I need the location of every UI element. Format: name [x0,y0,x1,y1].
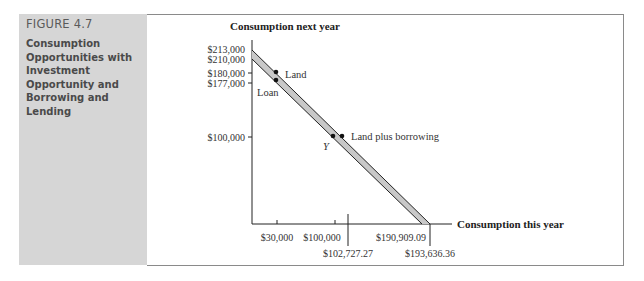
label-loan: Loan [257,87,279,98]
x-tick-label: $100,000 [303,232,341,243]
point-y [331,134,336,139]
label-land: Land [285,69,307,80]
chart: Consumption next year $213,000 $210,000 … [0,0,644,281]
label-land-plus-borrowing: Land plus borrowing [351,131,440,142]
y-tick-label: $100,000 [208,132,246,143]
x-tick-label: $30,000 [261,232,294,243]
label-y: Y [323,141,330,152]
point-land-plus-borrowing [340,134,345,139]
x-tick-label: $102,727.27 [323,248,373,259]
y-tick-label: $210,000 [208,54,246,65]
x-axis-title: Consumption this year [457,218,564,230]
point-loan [274,78,279,83]
x-tick-label: $193,636.36 [405,248,455,259]
x-tick-label: $190,909.09 [376,232,426,243]
y-tick-label: $177,000 [208,78,246,89]
y-axis-title: Consumption next year [230,20,340,32]
point-land [274,70,279,75]
